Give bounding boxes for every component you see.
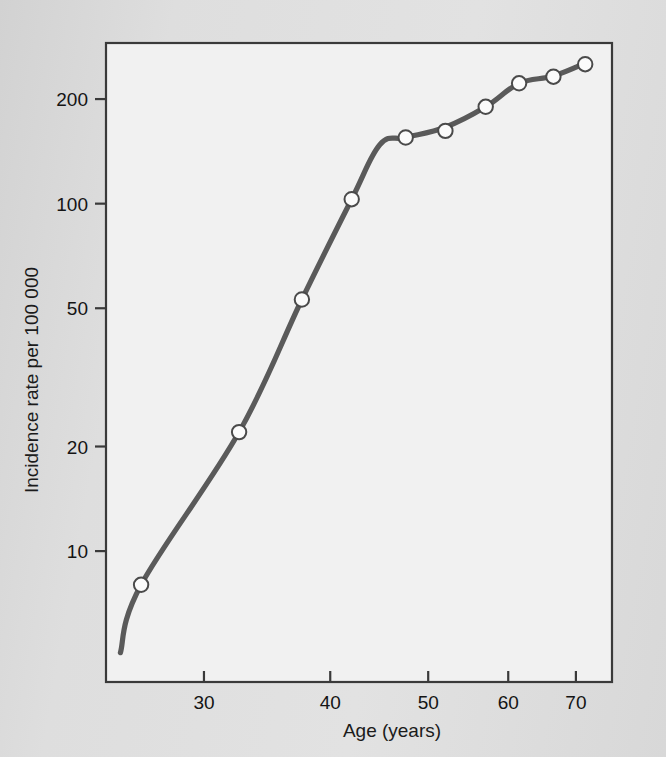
x-tick-label: 30	[193, 692, 214, 713]
data-point-marker	[578, 57, 592, 71]
data-point-marker	[512, 76, 526, 90]
x-tick-label: 60	[498, 692, 519, 713]
y-axis-tick-labels: 102050100200	[56, 89, 88, 562]
data-point-marker	[438, 124, 452, 138]
x-axis-tick-labels: 3040506070	[193, 692, 586, 713]
x-axis-title: Age (years)	[343, 720, 441, 741]
x-tick-label: 40	[320, 692, 341, 713]
data-point-marker	[134, 578, 148, 592]
data-point-marker	[232, 425, 246, 439]
y-tick-label: 10	[67, 541, 88, 562]
data-point-marker	[546, 70, 560, 84]
data-point-marker	[479, 100, 493, 114]
y-axis-title: Incidence rate per 100 000	[21, 267, 42, 493]
y-tick-label: 50	[67, 298, 88, 319]
x-tick-label: 70	[565, 692, 586, 713]
figure-container: 102050100200 3040506070 Age (years) Inci…	[0, 0, 666, 757]
y-tick-label: 100	[56, 194, 88, 215]
incidence-rate-by-age-chart: 102050100200 3040506070 Age (years) Inci…	[0, 0, 666, 757]
data-point-marker	[345, 192, 359, 206]
plot-area-background	[106, 43, 612, 682]
y-tick-label: 200	[56, 89, 88, 110]
data-point-marker	[295, 292, 309, 306]
data-point-marker	[399, 130, 413, 144]
y-tick-label: 20	[67, 437, 88, 458]
y-axis-ticks	[95, 99, 106, 551]
x-tick-label: 50	[418, 692, 439, 713]
